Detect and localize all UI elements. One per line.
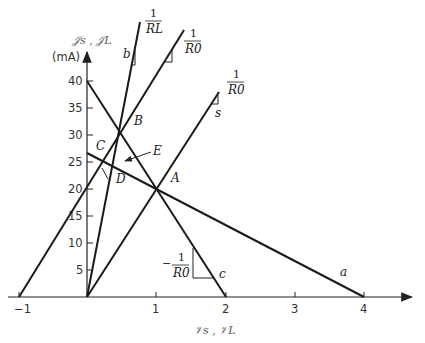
label-s: s [215, 106, 221, 120]
y-tick-5: 5 [76, 263, 83, 277]
x-axis [8, 292, 412, 297]
svg-text:1: 1 [190, 27, 197, 40]
slope-label-1-over-r0-s: 1 R0 [227, 68, 245, 97]
y-axis-label: 𝒥s , 𝒥L [71, 34, 111, 47]
x-tick-3: 3 [291, 302, 298, 316]
label-b: b [123, 47, 131, 61]
line-r0-offset [19, 30, 184, 297]
label-c: c [219, 267, 226, 281]
x-tick-1: 1 [152, 302, 159, 316]
svg-text:RL: RL [145, 22, 163, 36]
x-axis-label: 𝒱s , 𝒱L [194, 324, 235, 337]
svg-text:1: 1 [150, 7, 157, 20]
label-a: a [340, 265, 347, 279]
x-tick-2: 2 [222, 302, 229, 316]
x-tick-neg1: −1 [14, 302, 31, 316]
x-tick-4: 4 [360, 302, 367, 316]
y-tick-40: 40 [68, 74, 83, 88]
slope-label-1-over-rl: 1 RL [145, 7, 163, 36]
circuit-load-line-diagram: −1 1 2 3 4 5 10 15 20 25 30 35 40 𝒥s , 𝒥… [0, 0, 425, 343]
svg-text:R0: R0 [172, 266, 190, 280]
point-label-b: B [133, 114, 143, 128]
svg-text:−: − [162, 257, 171, 270]
y-tick-30: 30 [68, 128, 83, 142]
svg-text:R0: R0 [227, 83, 245, 97]
y-tick-20: 20 [68, 182, 83, 196]
point-label-c: C [96, 139, 105, 153]
point-label-a: A [170, 171, 180, 185]
y-tick-25: 25 [68, 155, 83, 169]
point-label-e: E [152, 144, 162, 158]
svg-text:R0: R0 [184, 42, 202, 56]
slope-label-1-over-r0: 1 R0 [184, 27, 202, 56]
c-d-connector [102, 168, 108, 179]
svg-text:1: 1 [233, 68, 240, 81]
y-tick-35: 35 [68, 101, 83, 115]
y-tick-10: 10 [68, 236, 83, 250]
svg-text:1: 1 [178, 251, 185, 264]
y-axis-unit: (mA) [52, 50, 80, 64]
point-label-d: D [115, 172, 126, 186]
slope-label-neg-1-over-r0: − 1 R0 [162, 251, 190, 280]
